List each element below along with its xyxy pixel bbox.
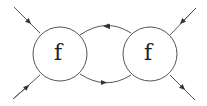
lower-arrow-icon [101,80,107,85]
left-vertex-label: f [54,42,62,64]
lower-propagator [80,74,131,83]
upper-arrow-icon [104,24,110,29]
loop-diagram [0,0,207,106]
right-vertex-label: f [144,42,152,64]
